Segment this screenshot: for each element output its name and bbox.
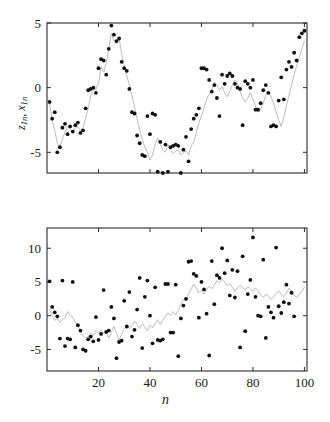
data-point [133,112,137,116]
data-point [303,29,307,33]
data-point [287,60,291,64]
data-point [228,294,232,298]
data-point [287,302,291,306]
plot-bottom: 1050-520406080100 [0,205,330,422]
data-point [120,60,124,64]
data-point [251,236,255,240]
data-point [58,337,62,341]
data-point [135,308,139,312]
data-point [207,78,211,82]
data-point [71,130,75,134]
data-point [210,90,214,94]
data-point [225,258,229,262]
y-axis-label-top-z: z [14,125,28,130]
data-point [259,314,263,318]
data-point [230,268,234,272]
data-point [261,88,265,92]
data-point [166,170,170,174]
data-point [184,135,188,139]
data-point [143,295,147,299]
data-point [153,285,157,289]
data-point [254,295,258,299]
series-line-x2n [50,279,305,340]
data-point [94,91,98,95]
data-point [223,271,227,275]
series-line-x1n [50,33,305,160]
panel-top: 50-5 z1n, x1n [0,0,330,205]
data-point [220,73,224,77]
data-point [187,159,191,163]
data-point [122,299,126,303]
data-point [259,101,263,105]
data-point [233,82,237,86]
data-point [215,96,219,100]
data-point [212,83,216,87]
data-point [277,99,281,103]
data-point [53,310,57,314]
data-point [166,282,170,286]
data-point [205,312,209,316]
data-point [84,106,88,110]
data-point [99,332,103,336]
data-point [66,132,70,136]
data-point [120,339,124,343]
data-point [290,65,294,69]
data-point [277,304,281,308]
data-point [71,280,75,284]
data-point [143,154,147,158]
data-point [282,300,286,304]
data-point [285,68,289,72]
data-point [115,356,119,360]
y-tick-label: -5 [30,342,41,357]
series-scatter-z2n [48,236,296,361]
y-axis-label-top-x: x [14,105,28,110]
data-point [264,336,268,340]
data-point [205,68,209,72]
data-point [197,316,201,320]
data-point [76,121,80,125]
data-point [212,302,216,306]
data-point [223,82,227,86]
data-point [91,339,95,343]
data-point [68,125,72,129]
data-point [179,316,183,320]
x-tick-label: 20 [92,375,105,390]
x-tick-label: 40 [143,375,156,390]
data-point [274,246,278,250]
data-point [107,329,111,333]
data-point [282,97,286,101]
data-point [61,279,65,283]
data-point [127,290,131,294]
data-point [61,126,65,130]
data-point [248,278,252,282]
data-point [184,297,188,301]
data-point [125,69,129,73]
data-point [58,145,62,149]
plot-top: 50-5 [0,0,330,205]
data-point [236,269,240,273]
data-point [274,125,278,129]
data-point [164,143,168,147]
data-point [89,335,93,339]
data-point [153,113,157,117]
y-tick-label: 5 [35,274,42,289]
data-point [76,323,80,327]
y-axis-label-top-x-sub: 1n [19,97,29,106]
y-tick-label: -5 [30,145,41,160]
data-point [285,283,289,287]
panel-bottom: 1050-520406080100 z2n, x2n [0,205,330,422]
data-point [218,276,222,280]
y-axis-label-top-sep: , [14,111,28,117]
data-point [94,315,98,319]
data-point [266,305,270,309]
data-point [251,78,255,82]
data-point [63,122,67,126]
data-point [161,171,165,175]
data-point [238,87,242,91]
data-point [194,274,198,278]
data-point [48,279,52,283]
data-point [189,127,193,131]
data-point [182,304,186,308]
data-point [102,288,106,292]
data-point [102,59,106,63]
